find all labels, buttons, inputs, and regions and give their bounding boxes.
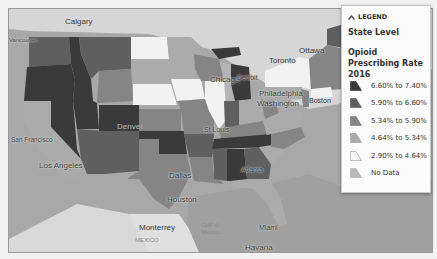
legend-toggle-label: LEGEND [358, 13, 387, 21]
city-label-washington: Washington [257, 99, 299, 108]
legend-item-label: No Data [371, 169, 399, 177]
swatch-icon [350, 168, 362, 178]
city-label-boston: Boston [309, 97, 331, 104]
city-label-mexico: MEXICO [135, 237, 159, 243]
city-label-san-francisco: San Francisco [11, 136, 53, 143]
city-label-monterrey: Monterrey [139, 223, 175, 232]
city-label-los-angeles: Los Angeles [39, 161, 83, 170]
chevron-up-icon [348, 15, 355, 20]
legend-item: 5.34% to 5.90% [350, 112, 427, 130]
legend-items: 6.60% to 7.40% 5.90% to 6.60% 5.34% to 5… [350, 77, 427, 182]
city-label-miami: Miami [259, 224, 278, 231]
legend-item: 2.90% to 4.64% [350, 147, 427, 165]
city-label-houston: Houston [167, 195, 197, 204]
city-label-ottawa: Ottawa [299, 46, 324, 55]
city-label-philadelphia: Philadelphia [259, 89, 303, 98]
city-label-calgary: Calgary [65, 17, 93, 26]
city-label-st-louis: St Louis [204, 126, 229, 133]
legend-item-label: 4.64% to 5.34% [371, 134, 427, 142]
city-label-vancouver: Vancouver [9, 37, 37, 43]
city-label-dallas: Dallas [169, 171, 191, 180]
swatch-icon [350, 116, 362, 126]
city-label-detroit: Detroit [237, 74, 258, 81]
city-label-toronto: Toronto [269, 56, 296, 65]
swatch-icon [350, 151, 362, 161]
city-label-chicago: Chicago [210, 75, 239, 84]
legend-item: No Data [350, 165, 427, 183]
swatch-icon [350, 98, 362, 108]
legend-item: 5.90% to 6.60% [350, 95, 427, 113]
legend-item-label: 2.90% to 4.64% [371, 152, 427, 160]
city-label-denver: Denver [117, 122, 143, 131]
legend-level: State Level [348, 28, 399, 37]
swatch-icon [350, 81, 362, 91]
legend-item-label: 6.60% to 7.40% [371, 82, 427, 90]
city-label-atlanta: Atlanta [241, 166, 263, 173]
water-label-gulf-of-mexico: Gulf of Mexico [201, 222, 229, 236]
legend-title: Opioid Prescribing Rate 2016 [348, 47, 428, 80]
legend-item-label: 5.90% to 6.60% [371, 99, 427, 107]
swatch-icon [350, 133, 362, 143]
legend-item: 4.64% to 5.34% [350, 130, 427, 148]
city-label-havana: Havana [245, 243, 273, 252]
legend-item: 6.60% to 7.40% [350, 77, 427, 95]
legend-item-label: 5.34% to 5.90% [371, 117, 427, 125]
legend-panel: LEGEND State Level Opioid Prescribing Ra… [341, 5, 431, 193]
legend-toggle[interactable]: LEGEND [348, 13, 387, 21]
